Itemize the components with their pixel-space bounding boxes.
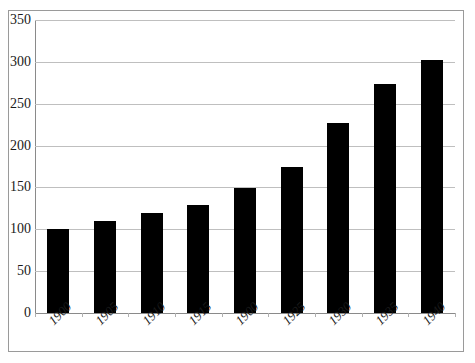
x-tick-label: 1905: [93, 300, 121, 328]
x-minor-tick: [175, 313, 176, 317]
x-tick-label: 1940: [420, 300, 448, 328]
x-minor-tick: [268, 313, 269, 317]
x-minor-tick: [82, 313, 83, 317]
x-minor-tick: [362, 313, 363, 317]
x-minor-tick: [128, 313, 129, 317]
x-tick-label: 1900: [46, 300, 74, 328]
x-tick-label: 1930: [326, 300, 354, 328]
x-tick-label: 1925: [280, 300, 308, 328]
x-minor-tick: [222, 313, 223, 317]
bar-chart-figure: 050100150200250300350 190019051910191519…: [0, 0, 475, 363]
x-minor-tick: [408, 313, 409, 317]
x-tick-label: 1900: [233, 300, 261, 328]
x-tick-label: 1935: [373, 300, 401, 328]
x-minor-tick: [315, 313, 316, 317]
x-tick-label: 1910: [140, 300, 168, 328]
x-axis-tick-labels: 190019051910191519001925193019351940: [0, 0, 475, 363]
x-minor-tick: [455, 313, 456, 317]
x-minor-tick: [35, 313, 36, 317]
x-tick-label: 1915: [186, 300, 214, 328]
